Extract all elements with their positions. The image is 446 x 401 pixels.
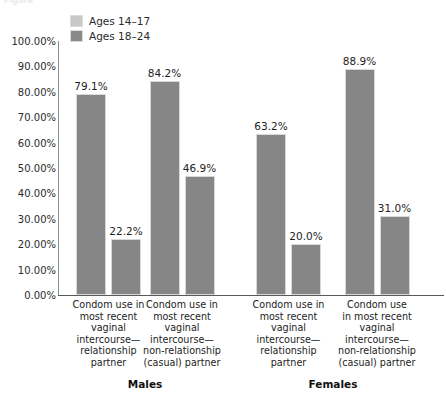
category-label-3-line-4: intercourse— xyxy=(253,334,325,346)
bar-value-label-3-ages-18-24: 20.0% xyxy=(289,230,322,242)
legend-label-ages-18-24: Ages 18–24 xyxy=(89,30,150,42)
y-axis-tick-60: 60.00% xyxy=(2,137,56,148)
bar-value-label-2-ages-14-17: 84.2% xyxy=(148,67,181,79)
bar-value-label-4-ages-14-17: 88.9% xyxy=(343,55,376,67)
bar-1-ages-18-24[interactable] xyxy=(111,239,141,295)
legend-swatch-icon-ages-18-24 xyxy=(70,30,83,42)
bar-chart: Figure 100.00%90.00%80.00%70.00%60.00%50… xyxy=(0,0,446,401)
y-axis-tick-40: 40.00% xyxy=(2,188,56,199)
category-label-1-line-3: vaginal xyxy=(73,322,145,334)
category-label-2-line-3: vaginal xyxy=(143,322,221,334)
y-axis-tick-100: 100.00% xyxy=(2,36,56,47)
category-label-3: Condom use inmost recentvaginalintercour… xyxy=(253,299,325,369)
x-axis-line xyxy=(58,295,444,296)
bar-value-label-4-ages-18-24: 31.0% xyxy=(378,202,411,214)
category-label-4-line-2: in most recent xyxy=(338,311,416,323)
group-label-females: Females xyxy=(309,378,358,390)
y-axis-tick-0: 0.00% xyxy=(2,290,56,301)
legend-item-ages-18-24: Ages 18–24 xyxy=(70,30,150,42)
y-axis-tick-70: 70.00% xyxy=(2,112,56,123)
category-label-2-line-5: non-relationship xyxy=(143,345,221,357)
category-label-1: Condom use inmost recentvaginalintercour… xyxy=(73,299,145,369)
bar-value-label-2-ages-18-24: 46.9% xyxy=(183,162,216,174)
category-label-2-line-1: Condom use in xyxy=(143,299,221,311)
y-axis-line xyxy=(58,41,59,296)
category-label-3-line-6: partner xyxy=(253,357,325,369)
legend-item-ages-14-17: Ages 14–17 xyxy=(70,15,150,27)
category-label-1-line-1: Condom use in xyxy=(73,299,145,311)
y-axis-tick-20: 20.00% xyxy=(2,239,56,250)
category-label-4-line-6: (casual) partner xyxy=(338,357,416,369)
bar-1-ages-14-17[interactable] xyxy=(76,94,106,295)
bar-value-label-3-ages-14-17: 63.2% xyxy=(254,120,287,132)
y-axis-tick-labels: 100.00%90.00%80.00%70.00%60.00%50.00%40.… xyxy=(0,0,56,401)
bar-3-ages-18-24[interactable] xyxy=(291,244,321,295)
legend-label-ages-14-17: Ages 14–17 xyxy=(89,15,150,27)
bar-4-ages-14-17[interactable] xyxy=(345,69,375,295)
category-label-3-line-1: Condom use in xyxy=(253,299,325,311)
y-axis-tick-90: 90.00% xyxy=(2,61,56,72)
bar-2-ages-18-24[interactable] xyxy=(185,176,215,295)
bar-3-ages-14-17[interactable] xyxy=(256,134,286,295)
category-label-1-line-2: most recent xyxy=(73,311,145,323)
category-label-2-line-2: most recent xyxy=(143,311,221,323)
category-label-3-line-5: relationship xyxy=(253,345,325,357)
category-label-1-line-4: intercourse— xyxy=(73,334,145,346)
category-label-4: Condom usein most recentvaginalintercour… xyxy=(338,299,416,369)
category-label-4-line-3: vaginal xyxy=(338,322,416,334)
category-label-1-line-6: partner xyxy=(73,357,145,369)
bar-2-ages-14-17[interactable] xyxy=(150,81,180,295)
category-label-3-line-3: vaginal xyxy=(253,322,325,334)
category-label-2-line-6: (casual) partner xyxy=(143,357,221,369)
bar-value-label-1-ages-14-17: 79.1% xyxy=(74,80,107,92)
category-label-4-line-1: Condom use xyxy=(338,299,416,311)
y-axis-tick-50: 50.00% xyxy=(2,163,56,174)
category-label-1-line-5: relationship xyxy=(73,345,145,357)
bar-4-ages-18-24[interactable] xyxy=(380,216,410,295)
bar-value-label-1-ages-18-24: 22.2% xyxy=(109,225,142,237)
category-label-4-line-5: non-relationship xyxy=(338,345,416,357)
legend-swatch-icon-ages-14-17 xyxy=(70,15,83,27)
y-axis-tick-10: 10.00% xyxy=(2,264,56,275)
y-axis-tick-80: 80.00% xyxy=(2,86,56,97)
y-axis-tick-30: 30.00% xyxy=(2,213,56,224)
category-label-3-line-2: most recent xyxy=(253,311,325,323)
category-label-2-line-4: intercourse— xyxy=(143,334,221,346)
category-label-4-line-4: intercourse— xyxy=(338,334,416,346)
category-label-2: Condom use inmost recentvaginalintercour… xyxy=(143,299,221,369)
legend: Ages 14–17 Ages 18–24 xyxy=(70,15,150,42)
group-label-males: Males xyxy=(128,378,163,390)
